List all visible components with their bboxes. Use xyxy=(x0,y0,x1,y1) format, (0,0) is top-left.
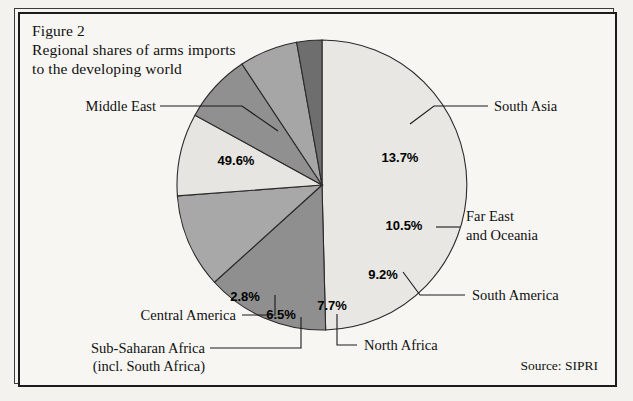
callout-far-east-and-oceania-line-1: Far East xyxy=(466,208,514,224)
callout-central-america: Central America xyxy=(141,307,237,323)
slice-value-far-east-and-oceania: 10.5% xyxy=(386,218,423,233)
source-label: Source: SIPRI xyxy=(520,358,598,373)
slice-value-north-africa: 7.7% xyxy=(317,298,347,313)
callout-sub-saharan-africa-line-1: Sub-Saharan Africa xyxy=(91,340,206,356)
slice-value-south-america: 9.2% xyxy=(368,267,398,282)
slice-value-south-asia: 13.7% xyxy=(382,150,419,165)
pie-slice-middle-east[interactable] xyxy=(322,40,467,330)
slice-value-middle-east: 49.6% xyxy=(218,153,255,168)
callout-sub-saharan-africa-line-2: (incl. South Africa) xyxy=(93,358,206,375)
pie-slices xyxy=(177,40,467,330)
figure-inner-border: Figure 2 Regional shares of arms imports… xyxy=(18,12,617,387)
callout-south-asia: South Asia xyxy=(494,98,558,114)
slice-value-central-america: 2.8% xyxy=(230,289,260,304)
callout-far-east-and-oceania-line-2: and Oceania xyxy=(466,227,539,243)
callout-south-america: South America xyxy=(472,287,559,303)
callout-middle-east: Middle East xyxy=(86,98,156,114)
callout-north-africa: North Africa xyxy=(364,337,438,353)
pie-chart: 49.6% 13.7% 10.5% 9.2% 7.7% 6.5% 2.8% Mi… xyxy=(20,14,615,385)
figure-container: Figure 2 Regional shares of arms imports… xyxy=(0,0,633,401)
